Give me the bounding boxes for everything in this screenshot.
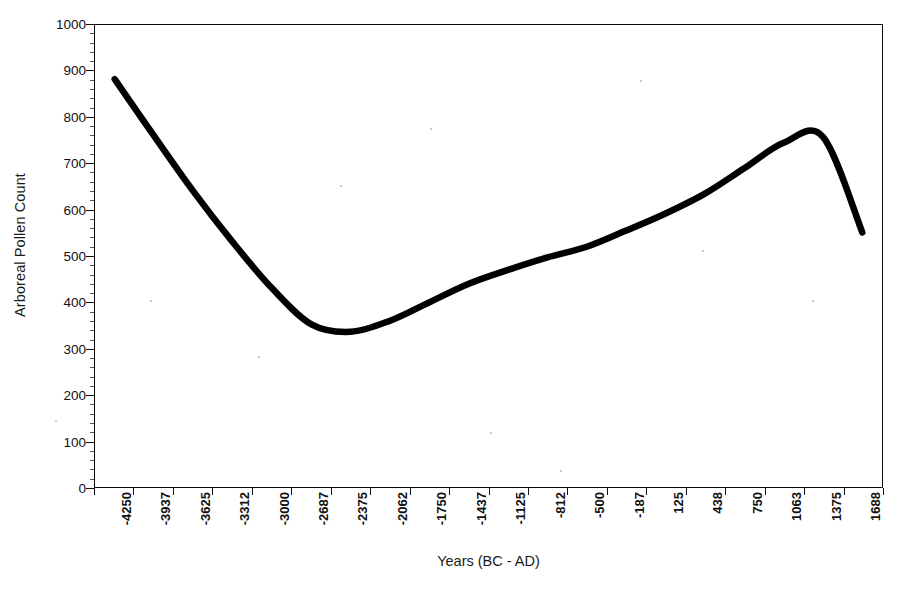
y-minor-tick-mark [90, 451, 94, 452]
y-minor-tick-mark [90, 182, 94, 183]
y-minor-tick-mark [90, 135, 94, 136]
y-tick-label: 200 [63, 388, 86, 403]
y-minor-tick-mark [90, 330, 94, 331]
y-minor-tick-mark [90, 367, 94, 368]
x-tick-label: -500 [592, 492, 607, 518]
y-minor-tick-mark [90, 414, 94, 415]
x-tick-label: -2375 [355, 492, 370, 525]
y-minor-tick-mark [90, 33, 94, 34]
y-tick-mark [86, 24, 94, 25]
y-minor-tick-mark [90, 284, 94, 285]
x-tick-label: -3312 [237, 492, 252, 525]
y-tick-label: 900 [63, 63, 86, 78]
x-tick-mark [370, 488, 371, 495]
x-tick-label: -2687 [316, 492, 331, 525]
y-tick-label: 100 [63, 434, 86, 449]
y-tick-label: 700 [63, 156, 86, 171]
y-tick-label: 0 [78, 481, 86, 496]
y-axis-tick-labels: 01002003004005006007008009001000 [38, 24, 86, 488]
y-minor-tick-mark [90, 404, 94, 405]
y-tick-mark [86, 163, 94, 164]
x-tick-label: 438 [710, 492, 725, 514]
x-tick-mark [410, 488, 411, 495]
x-tick-mark [252, 488, 253, 495]
y-tick-mark [86, 488, 94, 489]
x-tick-label: -1437 [474, 492, 489, 525]
y-minor-tick-mark [90, 423, 94, 424]
scan-speck [490, 432, 492, 434]
x-tick-mark [804, 488, 805, 495]
y-minor-tick-mark [90, 275, 94, 276]
x-tick-mark [449, 488, 450, 495]
x-tick-mark [567, 488, 568, 495]
y-tick-mark [86, 210, 94, 211]
y-tick-label: 500 [63, 249, 86, 264]
y-minor-tick-mark [90, 89, 94, 90]
x-tick-mark [607, 488, 608, 495]
x-tick-label: -1125 [513, 492, 528, 525]
y-minor-tick-mark [90, 200, 94, 201]
x-tick-label: -2062 [395, 492, 410, 525]
scan-speck [430, 128, 432, 130]
y-tick-label: 600 [63, 202, 86, 217]
x-tick-mark [212, 488, 213, 495]
y-minor-tick-mark [90, 293, 94, 294]
y-minor-tick-mark [90, 108, 94, 109]
x-tick-mark [646, 488, 647, 495]
scan-speck [560, 470, 562, 472]
x-tick-mark [133, 488, 134, 495]
x-tick-label: 1375 [829, 492, 844, 521]
y-minor-tick-mark [90, 386, 94, 387]
y-tick-mark [86, 349, 94, 350]
x-axis-tick-labels: -4250-3937-3625-3312-3000-2687-2375-2062… [94, 492, 883, 548]
y-minor-tick-mark [90, 321, 94, 322]
y-minor-tick-mark [90, 126, 94, 127]
x-tick-mark [725, 488, 726, 495]
y-minor-tick-mark [90, 52, 94, 53]
y-tick-label: 400 [63, 295, 86, 310]
y-minor-tick-mark [90, 358, 94, 359]
x-axis-title: Years (BC - AD) [94, 553, 883, 569]
x-tick-label: -812 [553, 492, 568, 518]
x-tick-label: -3625 [198, 492, 213, 525]
x-tick-label: -3000 [277, 492, 292, 525]
y-minor-tick-mark [90, 172, 94, 173]
x-tick-label: -3937 [158, 492, 173, 525]
x-tick-mark [489, 488, 490, 495]
x-tick-label: 750 [750, 492, 765, 514]
y-minor-tick-mark [90, 247, 94, 248]
scan-speck [258, 356, 260, 358]
y-minor-tick-mark [90, 145, 94, 146]
x-tick-label: -1750 [434, 492, 449, 525]
y-minor-tick-mark [90, 479, 94, 480]
y-minor-tick-mark [90, 340, 94, 341]
y-minor-tick-mark [90, 219, 94, 220]
y-tick-label: 300 [63, 341, 86, 356]
x-tick-label: 125 [671, 492, 686, 514]
x-tick-mark [686, 488, 687, 495]
y-minor-tick-mark [90, 312, 94, 313]
scan-speck [640, 80, 642, 82]
pollen-curve-svg [95, 25, 882, 487]
x-tick-label: -4250 [119, 492, 134, 525]
y-minor-tick-mark [90, 43, 94, 44]
x-tick-mark [173, 488, 174, 495]
scan-speck [340, 185, 342, 187]
scan-speck [702, 250, 704, 252]
scan-speck [812, 300, 814, 302]
y-minor-tick-mark [90, 191, 94, 192]
y-minor-tick-mark [90, 237, 94, 238]
y-tick-mark [86, 442, 94, 443]
x-tick-mark [844, 488, 845, 495]
y-tick-mark [86, 302, 94, 303]
y-minor-tick-mark [90, 228, 94, 229]
y-tick-label: 800 [63, 109, 86, 124]
y-tick-mark [86, 117, 94, 118]
y-minor-tick-mark [90, 460, 94, 461]
y-minor-tick-mark [90, 432, 94, 433]
y-tick-mark [86, 395, 94, 396]
scan-speck [150, 300, 152, 302]
y-tick-mark [86, 256, 94, 257]
pollen-count-line [115, 79, 863, 332]
y-minor-tick-mark [90, 61, 94, 62]
